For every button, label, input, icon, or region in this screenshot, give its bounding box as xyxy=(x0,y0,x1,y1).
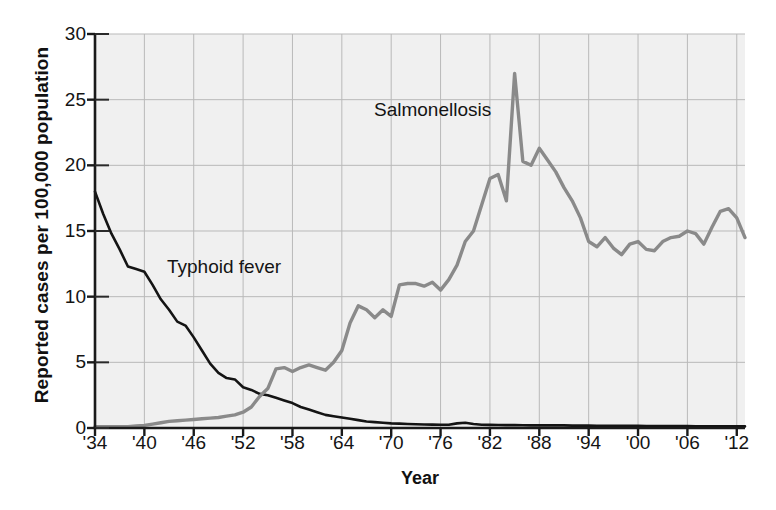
x-axis-tick-label: '52 xyxy=(231,432,256,454)
x-axis-tick-label: '94 xyxy=(576,432,601,454)
y-axis-tick-label: 25 xyxy=(65,89,86,111)
chart-figure: Reported cases per 100,000 population Ye… xyxy=(0,0,776,510)
y-axis-tick-label: 20 xyxy=(65,154,86,176)
y-axis-tick-label: 10 xyxy=(65,286,86,308)
y-axis-tick-label: 5 xyxy=(75,351,86,373)
x-axis-tick-label: '82 xyxy=(478,432,503,454)
x-axis-tick-label: '70 xyxy=(379,432,404,454)
x-axis-tick-label: '64 xyxy=(329,432,354,454)
x-axis-tick-label: '06 xyxy=(675,432,700,454)
x-axis-tick-label: '46 xyxy=(181,432,206,454)
x-axis-tick-label: '00 xyxy=(626,432,651,454)
x-axis-tick-label: '12 xyxy=(724,432,749,454)
x-axis-title: Year xyxy=(95,468,745,489)
y-axis-tick-labels: 051015202530 xyxy=(40,0,86,510)
x-axis-tick-label: '34 xyxy=(83,432,108,454)
x-axis-tick-label: '76 xyxy=(428,432,453,454)
x-axis-tick-label: '40 xyxy=(132,432,157,454)
y-axis-tick-label: 30 xyxy=(65,23,86,45)
x-axis-tick-label: '58 xyxy=(280,432,305,454)
x-axis-tick-label: '88 xyxy=(527,432,552,454)
series-annotation-typhoid: Typhoid fever xyxy=(167,256,281,278)
series-annotation-salmonellosis: Salmonellosis xyxy=(374,99,491,121)
y-axis-tick-label: 15 xyxy=(65,220,86,242)
